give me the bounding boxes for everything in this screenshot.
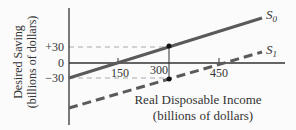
y-axis-label-line2: (billions of dollars) [25,16,39,109]
x-axis-label-line2: (billions of dollars) [153,108,253,123]
y-tick-0: 0 [58,56,64,70]
point-s0-300 [167,44,172,49]
x-tick-label-150: 150 [111,66,129,80]
s1-label: S1 [266,42,277,59]
y-axis-label: Desired Saving (billions of dollars) [11,16,39,109]
y-tick-minus-30: −30 [45,71,64,85]
x-tick-label-450: 450 [210,66,228,80]
x-tick-label-300: 300 [150,63,168,77]
s0-label: S0 [266,7,278,24]
chart-svg: +30 0 −30 150 300 450 S0 S1 Real Disposa… [0,0,296,130]
saving-function-chart: +30 0 −30 150 300 450 S0 S1 Real Disposa… [0,0,296,130]
point-s1-300 [167,77,172,82]
x-axis-label-line1: Real Disposable Income [134,92,261,107]
y-tick-plus-30: +30 [45,40,64,54]
y-axis-label-line1: Desired Saving [11,25,25,99]
